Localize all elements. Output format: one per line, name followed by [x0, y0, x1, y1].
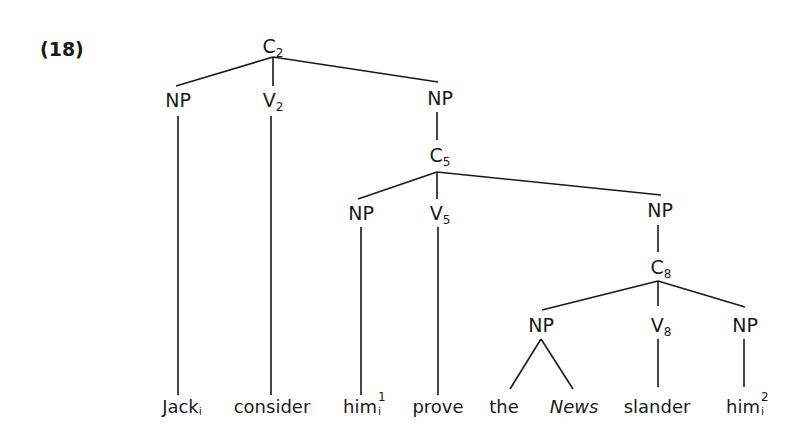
node-np-clause: NP — [647, 200, 673, 220]
word-consider: consider — [234, 396, 311, 417]
word-slander: slander — [624, 396, 691, 417]
word-him2: him2i — [726, 396, 768, 417]
node-c5: C5 — [430, 145, 451, 172]
node-np-him1: NP — [348, 203, 374, 223]
node-np-the-news: NP — [528, 315, 554, 335]
node-v8: V8 — [651, 315, 672, 342]
word-the: the — [489, 396, 519, 417]
node-np-him2: NP — [732, 315, 758, 335]
word-news: News — [550, 396, 599, 417]
node-c8: C8 — [651, 257, 672, 284]
tree-edges — [0, 0, 808, 436]
node-v2: V2 — [263, 90, 284, 117]
node-np-object: NP — [427, 88, 453, 108]
node-np-subject: NP — [165, 90, 191, 110]
example-number: (18) — [40, 38, 84, 60]
word-jack: Jacki — [162, 396, 202, 418]
word-him1: him1i — [343, 396, 385, 417]
node-c2: C2 — [263, 36, 284, 63]
node-v5: V5 — [430, 203, 451, 230]
word-prove: prove — [412, 396, 463, 417]
